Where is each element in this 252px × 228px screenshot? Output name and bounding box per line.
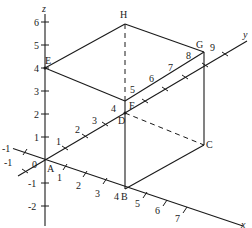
edge-EH	[45, 24, 125, 68]
z-label-neg1: -1	[28, 178, 36, 189]
point-E: E	[45, 55, 51, 66]
z-label-neg2: -2	[28, 201, 36, 212]
y-label-3: 3	[92, 115, 97, 126]
y-label-8: 8	[186, 50, 191, 61]
point-E-dot	[44, 67, 47, 70]
edge-HG	[125, 24, 204, 52]
z-label-1: 1	[34, 132, 39, 143]
edge-BC	[125, 145, 204, 189]
origin-label: 0	[32, 159, 37, 170]
point-H: H	[120, 9, 127, 20]
box	[45, 24, 204, 189]
edge-DC-hidden	[125, 113, 204, 145]
z-axis-label: z	[41, 3, 46, 14]
y-label-5: 5	[130, 84, 135, 95]
x-label-neg1: -1	[2, 143, 10, 154]
y-label-1: 1	[56, 136, 61, 147]
y-label-neg1: -1	[4, 157, 12, 168]
point-B: B	[121, 191, 128, 202]
z-label-6: 6	[34, 17, 39, 28]
z-label-4: 4	[34, 63, 39, 74]
z-label-5: 5	[34, 40, 39, 51]
x-label-1: 1	[57, 172, 62, 183]
y-label-9: 9	[210, 42, 215, 53]
x-label-7: 7	[175, 213, 180, 224]
y-label-6: 6	[149, 73, 154, 84]
y-label-4: 4	[111, 103, 116, 114]
x-label-5: 5	[135, 198, 140, 209]
point-G: G	[196, 39, 203, 50]
point-F: F	[129, 100, 135, 111]
point-C: C	[206, 139, 213, 150]
x-label-4: 4	[114, 191, 119, 202]
coordinate-diagram: 6 5 4 3 2 1 -1 -2 -1 1 2 3 4 5 6 7 -1 1 …	[0, 0, 252, 228]
edge-EF	[45, 68, 125, 101]
z-label-2: 2	[34, 109, 39, 120]
y-axis-label: y	[242, 29, 248, 40]
x-label-3: 3	[95, 188, 100, 199]
y-label-7: 7	[168, 62, 173, 73]
z-label-3: 3	[34, 86, 39, 97]
x-axis-label: x	[240, 219, 246, 228]
point-D-dot	[124, 112, 127, 115]
edge-FG	[125, 52, 204, 101]
x-label-2: 2	[76, 180, 81, 191]
point-D: D	[118, 115, 125, 126]
y-label-2: 2	[75, 124, 80, 135]
x-label-6: 6	[155, 205, 160, 216]
point-A: A	[47, 163, 55, 174]
